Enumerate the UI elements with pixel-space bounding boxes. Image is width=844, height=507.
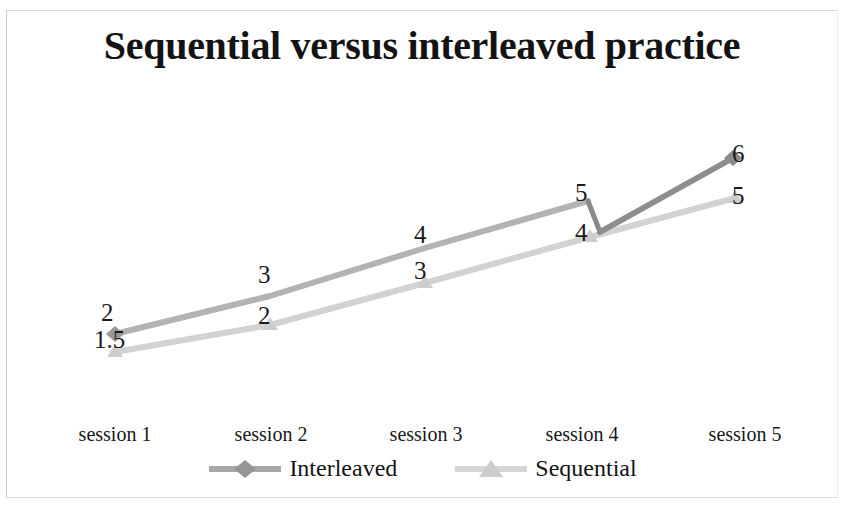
data-label-interleaved-session-2: 3 <box>258 262 271 287</box>
legend-label-interleaved: Interleaved <box>289 455 397 482</box>
chart-legend: Interleaved Sequential <box>0 455 844 482</box>
data-label-sequential-session-4: 4 <box>575 220 588 245</box>
data-label-sequential-session-1: 1.5 <box>94 327 125 352</box>
plot-area: 2 3 4 5 6 1.5 2 3 4 5 session 1 session … <box>0 0 844 507</box>
data-label-interleaved-session-3: 4 <box>414 222 427 247</box>
triangle-marker-icon <box>453 457 529 481</box>
x-axis-tick-session-5: session 5 <box>685 423 805 446</box>
x-axis-tick-session-4: session 4 <box>522 423 642 446</box>
data-label-interleaved-session-4: 5 <box>575 180 588 205</box>
data-label-sequential-session-5: 5 <box>732 183 745 208</box>
data-label-interleaved-session-1: 2 <box>101 300 114 325</box>
data-label-sequential-session-3: 3 <box>414 258 427 283</box>
x-axis-tick-session-1: session 1 <box>55 423 175 446</box>
data-label-interleaved-session-5: 6 <box>732 141 745 166</box>
data-label-sequential-session-2: 2 <box>258 303 271 328</box>
chart-screenshot: Sequential versus interleaved practice <box>0 0 844 507</box>
legend-label-sequential: Sequential <box>535 455 636 482</box>
diamond-marker-icon <box>207 457 283 481</box>
legend-item-interleaved[interactable]: Interleaved <box>207 455 397 482</box>
x-axis-tick-session-2: session 2 <box>211 423 331 446</box>
legend-item-sequential[interactable]: Sequential <box>453 455 636 482</box>
x-axis-tick-session-3: session 3 <box>366 423 486 446</box>
